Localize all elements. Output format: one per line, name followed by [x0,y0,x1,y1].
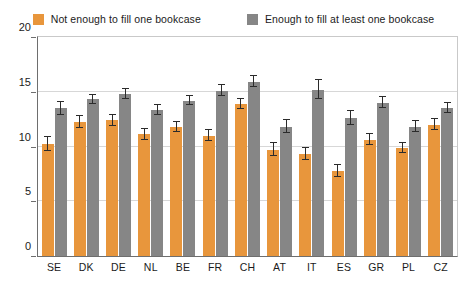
bar-rect [312,90,324,256]
bar-rect [203,136,215,256]
error-bar-cap-upper [412,120,419,121]
error-bar-cap-upper [173,121,180,122]
y-tick-label: 20 [5,22,31,33]
error-bar-cap-upper [109,114,116,115]
bar-group-nl [136,37,166,256]
error-bar-cap-upper [89,94,96,95]
x-tick-label-de: DE [104,260,134,278]
error-bar-cap-upper [154,104,161,105]
bar-es-series-1[interactable] [332,37,344,256]
bar-group-se [39,37,69,256]
x-tick-label-be: BE [168,260,198,278]
error-bar-cap-lower [218,95,225,96]
x-tick-label-it: IT [297,260,327,278]
bar-group-pl [394,37,424,256]
bar-group-de [104,37,134,256]
bar-nl-series-2[interactable] [151,37,163,256]
bar-group-gr [361,37,391,256]
bar-dk-series-1[interactable] [74,37,86,256]
x-tick-label-ch: CH [232,260,262,278]
bar-cz-series-2[interactable] [441,37,453,256]
x-tick-label-se: SE [39,260,69,278]
bar-rect [151,110,163,256]
bar-it-series-1[interactable] [299,37,311,256]
error-bar-cap-upper [270,142,277,143]
bar-chart: Not enough to fill one bookcaseEnough to… [0,0,467,290]
error-bar-cap-lower [89,103,96,104]
bar-rect [183,101,195,256]
x-tick-label-cz: CZ [426,260,456,278]
error-bar-cap-upper [315,79,322,80]
bar-rect [267,150,279,256]
y-tick-mark [31,92,36,93]
bar-ch-series-2[interactable] [248,37,260,256]
x-tick-label-fr: FR [200,260,230,278]
bar-es-series-2[interactable] [345,37,357,256]
bar-at-series-1[interactable] [267,37,279,256]
error-bar-cap-lower [237,108,244,109]
bar-de-series-1[interactable] [106,37,118,256]
error-bar-cap-lower [109,125,116,126]
bar-group-cz [426,37,456,256]
error-bar-cap-lower [250,86,257,87]
bar-se-series-2[interactable] [55,37,67,256]
error-bar-cap-lower [302,159,309,160]
bar-gr-series-2[interactable] [377,37,389,256]
error-bar-cap-upper [334,164,341,165]
error-bar-cap-upper [379,96,386,97]
y-tick-mark [31,37,36,38]
legend-swatch-icon [33,14,44,25]
error-bar-cap-upper [237,98,244,99]
bar-se-series-1[interactable] [42,37,54,256]
chart-legend: Not enough to fill one bookcaseEnough to… [0,8,467,30]
error-bar-cap-upper [57,101,64,102]
error-bar-cap-lower [315,98,322,99]
bar-rect [280,127,292,256]
bar-group-dk [71,37,101,256]
bar-fr-series-1[interactable] [203,37,215,256]
bar-be-series-2[interactable] [183,37,195,256]
y-tick-label: 10 [5,131,31,142]
y-tick-label: 15 [5,76,31,87]
error-bar-cap-lower [57,114,64,115]
x-tick-label-pl: PL [394,260,424,278]
bar-it-series-2[interactable] [312,37,324,256]
bar-de-series-2[interactable] [119,37,131,256]
bar-rect [170,127,182,256]
error-bar-cap-lower [173,131,180,132]
bar-pl-series-1[interactable] [396,37,408,256]
y-tick-mark [31,201,36,202]
bar-rect [345,118,357,256]
bar-at-series-2[interactable] [280,37,292,256]
x-tick-label-at: AT [265,260,295,278]
bar-rect [299,154,311,256]
y-axis: 05101520 [0,36,31,257]
bar-rect [409,127,421,256]
bar-group-fr [200,37,230,256]
bar-cz-series-1[interactable] [428,37,440,256]
x-tick-label-dk: DK [71,260,101,278]
legend-item-1: Not enough to fill one bookcase [33,14,201,25]
bar-dk-series-2[interactable] [87,37,99,256]
bar-rect [235,104,247,256]
error-bar-cap-lower [444,112,451,113]
bar-rect [138,134,150,256]
bar-nl-series-1[interactable] [138,37,150,256]
x-tick-label-gr: GR [361,260,391,278]
bar-pl-series-2[interactable] [409,37,421,256]
bar-fr-series-2[interactable] [216,37,228,256]
error-bar-cap-upper [76,115,83,116]
error-bar-cap-upper [218,84,225,85]
bar-ch-series-1[interactable] [235,37,247,256]
bar-gr-series-1[interactable] [364,37,376,256]
bar-rect [248,82,260,256]
error-bar-cap-lower [431,129,438,130]
bar-group-at [265,37,295,256]
error-bar-cap-lower [122,98,129,99]
y-tick-label: 5 [5,186,31,197]
bars-container [38,37,457,256]
bar-group-ch [232,37,262,256]
bar-be-series-1[interactable] [170,37,182,256]
error-bar-cap-lower [205,140,212,141]
error-bar-cap-upper [431,118,438,119]
